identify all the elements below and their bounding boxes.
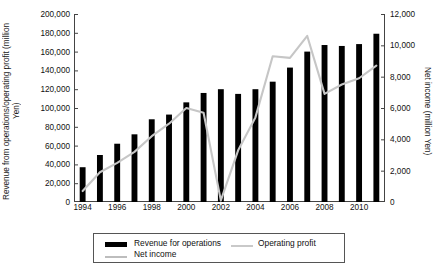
y-axis-right-tick-label: 8,000 [390, 72, 430, 81]
x-axis-tick-label: 2004 [246, 203, 264, 212]
x-axis-tick-label: 2000 [177, 203, 195, 212]
y-axis-right-ticks: 12,00010,0008,0006,0004,0002,0000 [390, 0, 434, 278]
y-axis-left-tick-label: 0 [26, 198, 70, 207]
x-axis-tick-label: 2006 [281, 203, 299, 212]
y-axis-right-tick-label: 6,000 [390, 104, 430, 113]
chart-figure: Revenue from operations/operating profit… [0, 0, 435, 278]
y-axis-right-tick-label: 4,000 [390, 135, 430, 144]
x-axis-tick-label: 2008 [315, 203, 333, 212]
y-axis-left-tick-label: 100,000 [26, 104, 70, 113]
x-axis-tick-label: 1998 [143, 203, 161, 212]
y-axis-left-tick-label: 140,000 [26, 66, 70, 75]
legend-swatch-operating-profit [231, 245, 253, 247]
y-axis-left-tick-label: 180,000 [26, 28, 70, 37]
y-axis-left-tick-label: 200,000 [26, 10, 70, 19]
y-axis-left-tick-label: 20,000 [26, 179, 70, 188]
y-axis-right-tick-label: 10,000 [390, 41, 430, 50]
x-axis-tick-label: 2002 [212, 203, 230, 212]
y-axis-right-tick-label: 0 [390, 198, 430, 207]
y-axis-right-tick-label: 2,000 [390, 166, 430, 175]
legend-swatch-net-income [105, 256, 127, 258]
chart-legend: Revenue for operations Operating profit … [93, 233, 345, 263]
y-axis-left-tick-label: 120,000 [26, 85, 70, 94]
y-axis-left-tick-label: 80,000 [26, 122, 70, 131]
x-axis-tick-label: 1994 [74, 203, 92, 212]
legend-label-revenue-for-operations: Revenue for operations [134, 238, 221, 248]
legend-label-operating-profit: Operating profit [258, 238, 316, 248]
y-axis-right-tick-label: 12,000 [390, 10, 430, 19]
chart-canvas [74, 14, 385, 202]
y-axis-left-ticks: 200,000180,000160,000140,000120,000100,0… [24, 0, 70, 278]
legend-label-net-income: Net income [134, 249, 176, 259]
legend-swatch-revenue-for-operations [105, 242, 127, 247]
x-axis-tick-label: 2010 [350, 203, 368, 212]
y-axis-left-tick-label: 160,000 [26, 47, 70, 56]
y-axis-left-title: Revenue from operations/operating profit… [2, 16, 24, 206]
plot-area [74, 14, 385, 202]
x-axis-tick-label: 1996 [108, 203, 126, 212]
y-axis-left-tick-label: 40,000 [26, 160, 70, 169]
y-axis-left-tick-label: 60,000 [26, 141, 70, 150]
